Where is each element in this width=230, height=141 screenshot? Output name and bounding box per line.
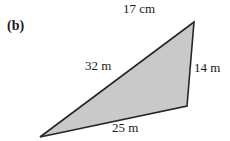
figure-container: (b) 17 cm 32 m 14 m 25 m [0, 0, 230, 141]
side-label-right: 14 m [194, 61, 220, 74]
side-label-top: 17 cm [123, 2, 155, 15]
side-label-bottom: 25 m [112, 121, 138, 134]
side-label-left: 32 m [85, 59, 111, 72]
part-label: (b) [7, 19, 24, 33]
